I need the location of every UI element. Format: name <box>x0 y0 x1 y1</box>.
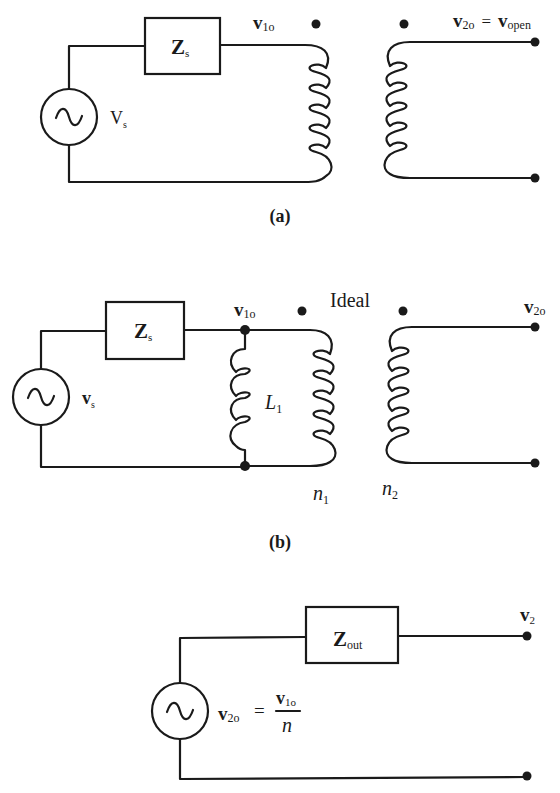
panel-b: Zs vs v1o L1 Ideal n1 n2 v2o (b) <box>13 289 546 553</box>
magnetizing-inductor-l1-icon <box>230 330 249 467</box>
polarity-dot-secondary-a <box>400 20 409 29</box>
terminal-c-top <box>523 632 532 641</box>
secondary-coil-icon-a <box>385 42 410 178</box>
secondary-coil-icon-b <box>387 327 412 463</box>
panel-a: Zs Vs v1o v2o=vopen (a) <box>41 10 540 227</box>
n2-label: n2 <box>382 477 398 502</box>
ideal-transformer-label: Ideal <box>330 289 370 311</box>
terminal-c-bottom <box>523 772 532 781</box>
wire-c-bottom <box>180 739 527 779</box>
primary-coil-icon-b <box>310 330 335 466</box>
v1o-label-b: v1o <box>234 299 256 321</box>
wire-b-left-top <box>41 331 106 369</box>
node-b-bottom <box>240 461 250 471</box>
panel-c: Zout v2 v2o = v1o n <box>152 604 535 781</box>
l1-label: L1 <box>264 391 282 416</box>
wire-a-bottom <box>69 145 305 182</box>
vs-label-a: Vs <box>110 108 127 130</box>
terminal-a-bottom <box>531 174 540 183</box>
equation-equals: = <box>254 700 265 721</box>
v2o-equation-lhs: v2o <box>218 703 240 725</box>
polarity-dot-primary-a <box>312 20 321 29</box>
ac-source-icon <box>41 89 97 145</box>
circuit-figure: Zs Vs v1o v2o=vopen (a) <box>0 0 560 793</box>
terminal-a-top <box>531 38 540 47</box>
node-b-top <box>240 325 250 335</box>
n1-label: n1 <box>313 482 329 507</box>
v2o-vopen-label-a: v2o=vopen <box>453 10 531 32</box>
terminal-b-top <box>531 323 540 332</box>
polarity-dot-secondary-b <box>399 307 408 316</box>
caption-b: (b) <box>269 532 291 553</box>
ac-source-icon <box>13 369 69 425</box>
v2o-label-b: v2o <box>524 296 546 318</box>
equation-numerator: v1o <box>276 688 297 708</box>
terminal-b-bottom <box>531 459 540 468</box>
wire-a-left-top <box>69 46 145 89</box>
impedance-zout-box <box>306 607 398 663</box>
ac-source-icon <box>152 683 208 739</box>
vs-label-b: vs <box>82 388 95 410</box>
polarity-dot-primary-b <box>298 307 307 316</box>
primary-coil-icon-a <box>305 45 331 182</box>
equation-denominator: n <box>282 714 292 736</box>
v1o-label-a: v1o <box>253 12 275 34</box>
caption-a: (a) <box>270 206 291 227</box>
wire-b-bottom-left <box>41 425 245 467</box>
v2-label: v2 <box>520 604 535 626</box>
wire-c-left-top <box>180 637 306 683</box>
